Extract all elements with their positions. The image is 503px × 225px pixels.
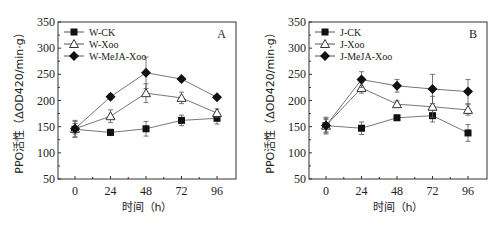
square-marker (107, 129, 114, 136)
x-tick-label: 72 (176, 184, 188, 198)
legend-label: J-MeJA-Xoo (340, 51, 392, 62)
legend-label: J-Xoo (340, 39, 364, 50)
y-tick-label: 150 (37, 120, 55, 134)
y-tick-label: 350 (37, 15, 55, 29)
plot-frame (58, 22, 236, 179)
x-tick-label: 48 (391, 184, 403, 198)
legend-item: W-CK (64, 27, 116, 38)
legend-item: J-MeJA-Xoo (315, 51, 392, 62)
series-w-ck (72, 113, 221, 138)
legend-label: J-CK (340, 27, 362, 38)
diamond-marker (463, 87, 473, 97)
legend-label: W-MeJA-Xoo (89, 51, 146, 62)
y-tick-label: 250 (288, 67, 306, 81)
triangle-marker (142, 89, 151, 97)
y-tick-label: 250 (37, 67, 55, 81)
diamond-marker (212, 92, 222, 102)
x-tick-label: 0 (72, 184, 78, 198)
y-tick-label: 100 (37, 146, 55, 160)
square-marker (178, 117, 185, 124)
y-tick-label: 150 (288, 120, 306, 134)
x-tick-label: 24 (356, 184, 368, 198)
diamond-marker (141, 68, 151, 78)
y-tick-label: 350 (288, 15, 306, 29)
diamond-marker (428, 84, 438, 94)
square-marker (71, 29, 78, 36)
y-tick-label: 300 (288, 41, 306, 55)
square-marker (143, 125, 150, 132)
x-tick-label: 24 (105, 184, 117, 198)
square-marker (322, 29, 329, 36)
square-marker (358, 125, 365, 132)
square-marker (394, 114, 401, 121)
legend-item: W-Xoo (64, 39, 118, 50)
legend-label: W-CK (89, 27, 116, 38)
legend-label: W-Xoo (89, 39, 118, 50)
diamond-marker (69, 51, 79, 61)
y-tick-label: 50 (294, 172, 306, 186)
x-axis-label: 时间（h） (122, 201, 173, 214)
y-tick-label: 200 (37, 94, 55, 108)
triangle-marker (393, 100, 402, 108)
y-tick-label: 300 (37, 41, 55, 55)
x-tick-label: 96 (462, 184, 474, 198)
triangle-marker (213, 109, 222, 117)
series-j-ck (323, 109, 472, 141)
panel-label: A (217, 27, 226, 41)
diamond-marker (392, 81, 402, 91)
square-marker (465, 129, 472, 136)
diamond-marker (177, 74, 187, 84)
y-tick-label: 50 (43, 172, 55, 186)
y-tick-label: 200 (288, 94, 306, 108)
x-tick-label: 72 (427, 184, 439, 198)
triangle-marker (106, 112, 115, 120)
diamond-marker (357, 75, 367, 85)
diamond-marker (320, 51, 330, 61)
x-tick-label: 48 (140, 184, 152, 198)
panel-label: B (469, 27, 477, 41)
chart-panel-a: 50100150200250300350024487296时间（h）PPO活性（… (12, 15, 236, 214)
legend-item: W-MeJA-Xoo (64, 51, 146, 62)
x-tick-label: 0 (323, 184, 329, 198)
y-tick-label: 100 (288, 146, 306, 160)
chart-panel-b: 50100150200250300350024487296时间（h）PPO活性（… (263, 15, 487, 214)
legend-item: J-Xoo (315, 39, 364, 50)
y-axis-label: PPO活性（ΔOD420/min·g） (263, 27, 277, 174)
y-axis-label: PPO活性（ΔOD420/min·g） (12, 27, 26, 174)
x-tick-label: 96 (211, 184, 223, 198)
legend-item: J-CK (315, 27, 362, 38)
x-axis-label: 时间（h） (373, 201, 424, 214)
chart-canvas: 50100150200250300350024487296时间（h）PPO活性（… (0, 0, 503, 225)
